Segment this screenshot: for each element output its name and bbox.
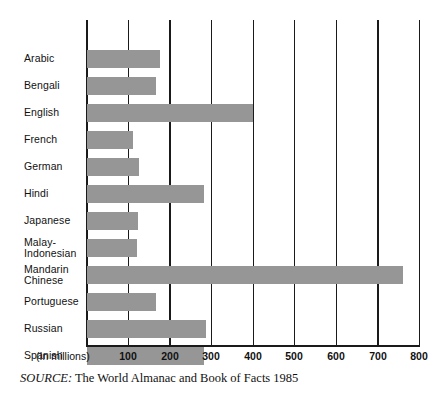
x-tick-label-100: 100 [119, 350, 137, 362]
bar-hindi [87, 185, 204, 203]
category-label-line: Portuguese [24, 296, 82, 308]
x-tick-label-500: 500 [285, 350, 303, 362]
category-label-russian: Russian [24, 316, 82, 342]
table-row: Russian [0, 316, 443, 342]
category-label-french: French [24, 127, 82, 153]
category-label-mandarin-chinese: Mandarin Chinese [24, 262, 82, 288]
table-row: Mandarin Chinese [0, 262, 443, 288]
bar-japanese [87, 212, 138, 230]
x-tick-label-700: 700 [369, 350, 387, 362]
table-row: Malay- Indonesian [0, 235, 443, 261]
language-speakers-bar-chart: Arabic Bengali English French German [0, 0, 443, 393]
bar-arabic [87, 50, 160, 68]
bar-english [87, 104, 253, 122]
category-label-line: Russian [24, 323, 82, 335]
category-label-line: Arabic [24, 53, 82, 65]
x-axis-tick-labels: 100 200 300 400 500 600 700 800 [0, 350, 443, 366]
x-tick-label-400: 400 [244, 350, 262, 362]
bar-mandarin-chinese [87, 266, 403, 284]
source-keyword: SOURCE: [20, 371, 72, 385]
category-label-line: Indonesian [24, 248, 82, 260]
category-label-hindi: Hindi [24, 181, 82, 207]
bar-rows: Arabic Bengali English French German [0, 20, 443, 346]
category-label-malay-indonesian: Malay- Indonesian [24, 235, 82, 261]
table-row: Arabic [0, 46, 443, 72]
bar-german [87, 158, 139, 176]
category-label-line: Hindi [24, 188, 82, 200]
category-label-arabic: Arabic [24, 46, 82, 72]
category-label-line: English [24, 107, 82, 119]
table-row: Bengali [0, 73, 443, 99]
x-tick-label-200: 200 [161, 350, 179, 362]
category-label-bengali: Bengali [24, 73, 82, 99]
category-label-german: German [24, 154, 82, 180]
table-row: Japanese [0, 208, 443, 234]
x-tick-label-800: 800 [410, 350, 428, 362]
category-label-line: Chinese [24, 275, 82, 287]
category-label-line: German [24, 161, 82, 173]
bar-malay-indonesian [87, 239, 137, 257]
x-tick-label-600: 600 [327, 350, 345, 362]
table-row: English [0, 100, 443, 126]
category-label-japanese: Japanese [24, 208, 82, 234]
source-text: The World Almanac and Book of Facts 1985 [75, 371, 298, 385]
table-row: Hindi [0, 181, 443, 207]
table-row: Portuguese [0, 289, 443, 315]
bar-bengali [87, 77, 156, 95]
bar-portuguese [87, 293, 156, 311]
category-label-line: Bengali [24, 80, 82, 92]
x-tick-label-300: 300 [202, 350, 220, 362]
source-note: SOURCE: The World Almanac and Book of Fa… [20, 371, 298, 386]
category-label-line: French [24, 134, 82, 146]
category-label-portuguese: Portuguese [24, 289, 82, 315]
table-row: German [0, 154, 443, 180]
bar-french [87, 131, 133, 149]
category-label-line: Japanese [24, 215, 82, 227]
category-label-english: English [24, 100, 82, 126]
table-row: French [0, 127, 443, 153]
bar-russian [87, 320, 206, 338]
